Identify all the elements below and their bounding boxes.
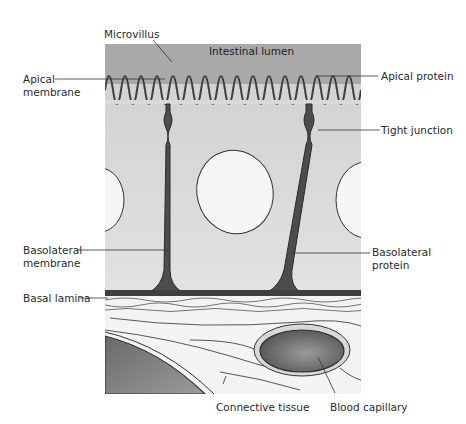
label-apical-membrane-line1: Apical (23, 73, 55, 86)
basal-lamina (105, 290, 361, 296)
label-basolateral-membrane-line1: Basolateral (23, 244, 82, 257)
nucleus-left (76, 168, 124, 232)
label-apical-protein: Apical protein (381, 70, 454, 83)
label-tight-junction: Tight junction (381, 124, 453, 137)
label-basolateral-membrane-line2: membrane (23, 257, 80, 270)
label-intestinal-lumen: Intestinal lumen (209, 45, 294, 57)
label-connective-tissue: Connective tissue (216, 401, 309, 414)
label-apical-membrane-line2: membrane (23, 86, 80, 99)
label-basal-lamina: Basal lamina (23, 292, 90, 305)
label-basolateral-protein-line2: protein (372, 259, 409, 272)
label-basolateral-protein-line1: Basolateral (372, 246, 431, 259)
epithelium-diagram (0, 0, 466, 424)
nucleus-right (336, 162, 396, 238)
label-blood-capillary: Blood capillary (330, 401, 408, 414)
label-microvillus: Microvillus (104, 28, 159, 41)
